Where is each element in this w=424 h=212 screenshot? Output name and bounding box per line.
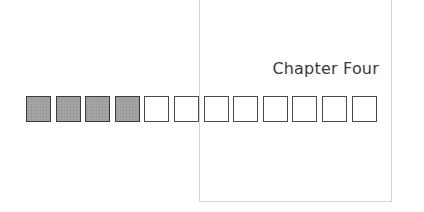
progress-square-empty xyxy=(322,96,347,122)
progress-square-filled xyxy=(115,96,140,122)
progress-square-empty xyxy=(352,96,377,122)
chapter-title: Chapter Four xyxy=(272,59,379,78)
progress-square-empty xyxy=(204,96,229,122)
progress-square-empty xyxy=(263,96,288,122)
progress-square-filled xyxy=(26,96,51,122)
progress-square-filled xyxy=(56,96,81,122)
progress-square-empty xyxy=(233,96,258,122)
progress-square-filled xyxy=(85,96,110,122)
progress-square-empty xyxy=(144,96,169,122)
progress-square-empty xyxy=(292,96,317,122)
progress-square-empty xyxy=(174,96,199,122)
